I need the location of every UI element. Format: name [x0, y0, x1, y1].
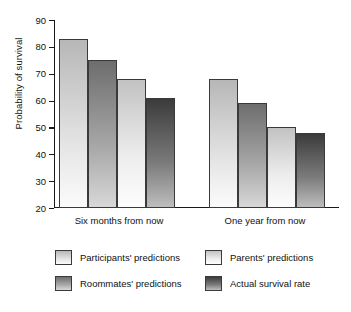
y-tick-20	[49, 208, 54, 209]
bar-group0-series2	[117, 79, 146, 208]
legend-item-parents-predictions: Parents' predictions	[205, 250, 313, 265]
legend: Participants' predictions Roommates' pre…	[0, 248, 351, 310]
legend-swatch-roommates-predictions	[55, 276, 72, 291]
y-tick-label-30: 30	[24, 177, 46, 187]
y-tick-label-90: 90	[24, 16, 46, 26]
y-axis-title: Probability of survival	[13, 4, 24, 164]
x-axis-label-group-0: Six months from now	[44, 215, 194, 226]
bar-group1-series0	[209, 79, 238, 208]
legend-swatch-parents-predictions	[205, 250, 222, 265]
x-axis-label-group-1: One year from now	[190, 215, 340, 226]
plot-area: Probability of survival 90 80 70 60 50 4…	[0, 0, 351, 232]
y-tick-label-60: 60	[24, 96, 46, 106]
bar-group0-series0	[59, 39, 88, 208]
bar-group1-series3	[296, 133, 325, 208]
y-tick-label-20: 20	[24, 204, 46, 214]
bars-container	[54, 20, 339, 208]
bar-group1-series1	[238, 103, 267, 208]
legend-swatch-actual-survival-rate	[205, 276, 222, 291]
bar-group0-series1	[88, 60, 117, 208]
legend-label-roommates-predictions: Roommates' predictions	[80, 279, 182, 289]
bar-group0-series3	[146, 98, 175, 208]
legend-item-actual-survival-rate: Actual survival rate	[205, 276, 310, 291]
y-tick-label-70: 70	[24, 69, 46, 79]
y-tick-label-40: 40	[24, 150, 46, 160]
legend-label-actual-survival-rate: Actual survival rate	[230, 279, 310, 289]
legend-label-parents-predictions: Parents' predictions	[230, 253, 313, 263]
y-tick-label-80: 80	[24, 42, 46, 52]
legend-item-roommates-predictions: Roommates' predictions	[55, 276, 182, 291]
bar-group1-series2	[267, 127, 296, 208]
legend-item-participants-predictions: Participants' predictions	[55, 250, 180, 265]
legend-swatch-participants-predictions	[55, 250, 72, 265]
bar-chart-figure: Probability of survival 90 80 70 60 50 4…	[0, 0, 351, 312]
legend-label-participants-predictions: Participants' predictions	[80, 253, 180, 263]
y-tick-label-50: 50	[24, 123, 46, 133]
